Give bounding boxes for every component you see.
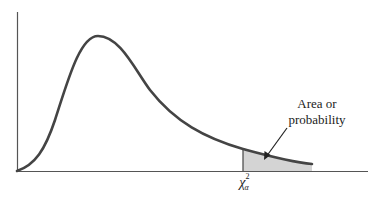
annotation-arrow-line <box>266 128 287 157</box>
annotation-line-2: probability <box>282 112 352 128</box>
density-curve <box>17 36 312 171</box>
chi-square-figure: Area or probability χ2α <box>0 0 381 199</box>
area-annotation: Area or probability <box>282 96 352 128</box>
annotation-line-1: Area or <box>282 96 352 112</box>
chi-superscript: 2 <box>245 172 249 181</box>
alpha-subscript: α <box>244 183 248 192</box>
critical-value-label: χ2α <box>229 174 259 192</box>
